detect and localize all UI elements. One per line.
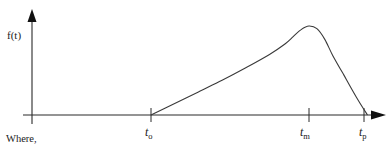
tick-label-tm-sub: m [303, 131, 310, 141]
tick-label-tp: tp [359, 125, 367, 141]
tick-label-tm: tm [300, 125, 310, 141]
caption-text: Where, [6, 133, 37, 144]
tick-label-t0: to [145, 125, 153, 141]
tick-label-t0-sub: o [148, 131, 152, 141]
function-curve [151, 26, 368, 115]
function-diagram: f(t) to tm tp [0, 0, 390, 149]
tick-label-tp-sub: p [362, 131, 366, 141]
x-axis-arrow-icon [371, 111, 386, 120]
y-axis-arrow-icon [28, 9, 37, 22]
y-axis-label: f(t) [7, 29, 21, 42]
